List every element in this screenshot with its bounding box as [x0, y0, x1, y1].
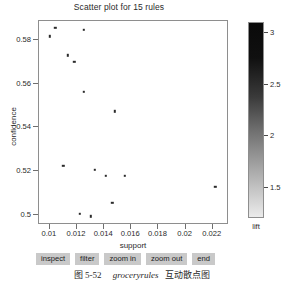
y-axis-title: confidence — [9, 92, 18, 162]
data-point[interactable] — [111, 202, 113, 204]
data-point[interactable] — [73, 60, 75, 62]
caption-figure-number: 图 5-52 — [74, 270, 102, 280]
colorbar-tick — [264, 135, 268, 136]
y-axis-tick — [33, 214, 38, 215]
plot-area[interactable] — [38, 20, 228, 224]
colorbar-tick-label: 1.5 — [270, 183, 281, 192]
data-point[interactable] — [93, 169, 95, 171]
data-point[interactable] — [123, 174, 125, 176]
data-point[interactable] — [83, 29, 85, 31]
data-point[interactable] — [62, 165, 64, 167]
y-axis-tick — [33, 83, 38, 84]
data-point[interactable] — [79, 213, 81, 215]
chart-title: Scatter plot for 15 rules — [0, 2, 238, 12]
colorbar-tick-label: 2 — [270, 131, 274, 140]
y-axis-tick-label: 0.56 — [0, 78, 31, 87]
end-button[interactable]: end — [192, 253, 215, 265]
colorbar-title: lift — [243, 222, 269, 231]
colorbar-tick — [264, 32, 268, 33]
zoom-in-button[interactable]: zoom in — [104, 253, 141, 265]
x-axis-tick-label: 0.022 — [192, 229, 232, 238]
data-point[interactable] — [66, 54, 68, 56]
colorbar-tick-label: 2.5 — [270, 79, 281, 88]
y-axis-tick — [33, 170, 38, 171]
data-point[interactable] — [54, 26, 56, 28]
colorbar-tick-label: 3 — [270, 28, 274, 37]
data-point[interactable] — [104, 174, 106, 176]
inspect-button[interactable]: inspect — [36, 253, 70, 265]
figure-caption: 图 5-52 groceryrules 互动散点图 — [0, 268, 284, 281]
x-axis-title: support — [38, 241, 228, 250]
y-axis-tick — [33, 39, 38, 40]
colorbar-tick — [264, 187, 268, 188]
scatter-plot-figure: Scatter plot for 15 rules 0.50.520.540.5… — [0, 0, 284, 284]
y-axis-tick-label: 0.58 — [0, 34, 31, 43]
y-axis-tick — [33, 126, 38, 127]
data-point[interactable] — [89, 215, 91, 217]
data-point[interactable] — [83, 90, 85, 92]
data-point[interactable] — [114, 110, 116, 112]
lift-colorbar — [248, 22, 264, 218]
caption-object-name: groceryrules — [113, 270, 159, 280]
colorbar-tick — [264, 84, 268, 85]
data-point[interactable] — [214, 186, 216, 188]
y-axis-tick-label: 0.5 — [0, 210, 31, 219]
interactive-control-bar: inspectfilterzoom inzoom outend — [36, 252, 242, 265]
caption-description: 互动散点图 — [165, 270, 210, 280]
filter-button[interactable]: filter — [75, 253, 99, 265]
data-point[interactable] — [49, 35, 51, 37]
zoom-out-button[interactable]: zoom out — [146, 253, 187, 265]
y-axis-tick-label: 0.52 — [0, 166, 31, 175]
